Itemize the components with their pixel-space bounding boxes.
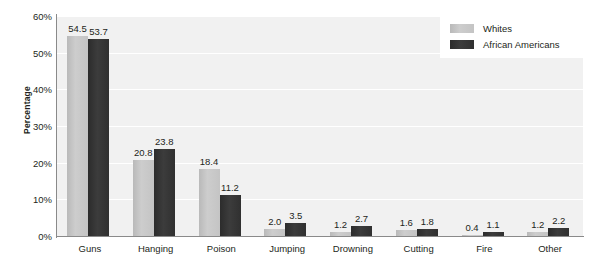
legend-label: African Americans [483, 39, 560, 50]
bar: 54.5 [67, 36, 88, 236]
bar: 2.2 [548, 228, 569, 236]
bar: 2.7 [351, 226, 372, 236]
bar: 11.2 [220, 195, 241, 236]
bar: 2.0 [264, 229, 285, 236]
bar-value-label: 2.0 [268, 216, 281, 227]
bar-group: 54.553.7 [57, 16, 123, 236]
bar-value-label: 54.5 [68, 23, 87, 34]
bar-value-label: 1.2 [531, 219, 544, 230]
bar: 0.4 [462, 235, 483, 236]
bar: 53.7 [88, 39, 109, 236]
y-axis-tick-labels: 0%10%20%30%40%50%60% [14, 16, 52, 236]
x-axis-category-labels: GunsHangingPoisonJumpingDrowningCuttingF… [57, 243, 583, 263]
legend-item[interactable]: African Americans [450, 37, 582, 51]
bar-chart-figure: Percentage 0%10%20%30%40%50%60% 54.553.7… [0, 0, 596, 269]
bar: 1.2 [330, 232, 351, 236]
bar-group: 1.22.7 [320, 16, 386, 236]
x-axis-category-label: Hanging [123, 243, 189, 254]
bar: 18.4 [199, 169, 220, 236]
bar: 23.8 [154, 149, 175, 236]
bar-value-label: 18.4 [200, 156, 219, 167]
chart-legend: WhitesAfrican Americans [440, 14, 590, 58]
bar: 1.6 [396, 230, 417, 236]
bar: 3.5 [285, 223, 306, 236]
bar-value-label: 1.2 [334, 219, 347, 230]
y-axis-tick-label: 30% [14, 121, 52, 132]
y-axis-tick-label: 0% [14, 231, 52, 242]
y-axis-tick-label: 40% [14, 84, 52, 95]
y-axis-tick-label: 20% [14, 157, 52, 168]
x-axis-category-label: Other [517, 243, 583, 254]
bar-group: 18.411.2 [189, 16, 255, 236]
x-axis-category-label: Drowning [320, 243, 386, 254]
bar-group: 2.03.5 [254, 16, 320, 236]
bar-value-label: 23.8 [155, 136, 174, 147]
legend-item[interactable]: Whites [450, 21, 582, 35]
bar: 1.8 [417, 229, 438, 236]
bar-group: 20.823.8 [123, 16, 189, 236]
bar-value-label: 1.6 [400, 217, 413, 228]
x-axis-category-label: Jumping [254, 243, 320, 254]
y-axis-tick-label: 60% [14, 11, 52, 22]
x-axis-category-label: Fire [452, 243, 518, 254]
bar-value-label: 3.5 [289, 210, 302, 221]
legend-color-swatch [450, 24, 474, 33]
x-axis-line [56, 236, 584, 237]
bar-value-label: 2.2 [552, 215, 565, 226]
bar: 1.1 [483, 232, 504, 236]
y-axis-tick-label: 10% [14, 194, 52, 205]
bar-value-label: 2.7 [355, 213, 368, 224]
bar-value-label: 0.4 [465, 222, 478, 233]
bar: 1.2 [527, 232, 548, 236]
legend-label: Whites [483, 23, 512, 34]
x-axis-category-label: Poison [189, 243, 255, 254]
y-axis-tick-label: 50% [14, 47, 52, 58]
legend-color-swatch [450, 40, 474, 49]
bar: 20.8 [133, 160, 154, 236]
bar-value-label: 11.2 [221, 182, 239, 193]
bar-value-label: 53.7 [89, 26, 108, 37]
bar-value-label: 1.1 [486, 219, 499, 230]
x-axis-category-label: Cutting [386, 243, 452, 254]
x-axis-category-label: Guns [57, 243, 123, 254]
bar-value-label: 20.8 [134, 147, 153, 158]
bar-value-label: 1.8 [421, 216, 434, 227]
